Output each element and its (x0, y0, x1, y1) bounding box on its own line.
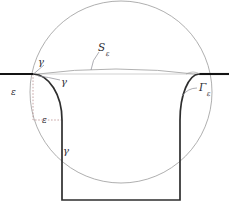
label-gamma-top-left: γ (38, 57, 44, 67)
label-gamma-epsilon-sub: ε (207, 90, 211, 98)
label-s-epsilon-sub: ε (106, 50, 110, 58)
label-gamma-bottom: γ (63, 146, 69, 156)
label-gamma-inner-left: γ (61, 77, 67, 87)
diagram-canvas (0, 0, 229, 212)
contour-diagram-figure: γ γ γ ε ε Sε Γε (0, 0, 229, 212)
label-epsilon-vertical: ε (11, 88, 16, 97)
label-s-epsilon: Sε (98, 42, 109, 56)
main-contour-path (33, 74, 199, 200)
label-gamma-epsilon: Γε (199, 82, 210, 96)
leader-gamma-inner-left (38, 76, 60, 80)
label-epsilon-horizontal: ε (42, 116, 47, 125)
s-epsilon-arc (33, 69, 199, 75)
label-gamma-epsilon-base: Γ (199, 81, 206, 93)
label-s-epsilon-base: S (98, 41, 105, 53)
